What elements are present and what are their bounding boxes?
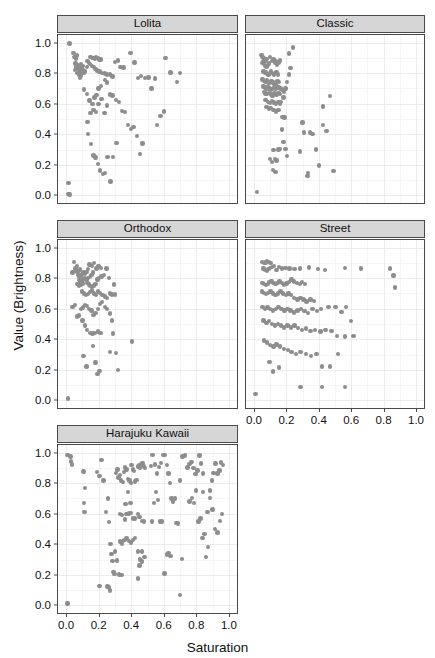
data-point <box>320 385 324 389</box>
data-point <box>199 461 203 465</box>
data-point <box>359 266 363 270</box>
data-point <box>321 123 325 127</box>
data-point <box>201 471 205 475</box>
facet-strip: Classic <box>245 15 425 33</box>
data-point <box>202 532 206 536</box>
data-point <box>113 549 117 553</box>
x-tick-label: 1.0 <box>212 619 246 631</box>
data-point <box>140 549 144 553</box>
gridline-major-horizontal <box>58 370 237 371</box>
data-point <box>128 501 132 505</box>
data-point <box>78 76 82 80</box>
data-point <box>308 130 312 134</box>
gridline-major-vertical <box>66 35 67 203</box>
data-point <box>93 311 97 315</box>
data-point <box>97 584 101 588</box>
facet-strip-label: Lolita <box>134 18 162 30</box>
data-point <box>138 152 142 156</box>
data-point <box>298 385 302 389</box>
y-tick-mark <box>54 247 57 248</box>
data-point <box>324 129 328 133</box>
data-point <box>339 310 343 314</box>
data-point <box>99 266 103 270</box>
x-tick-mark <box>319 409 320 412</box>
y-tick-label: 0.0 <box>21 189 51 201</box>
data-point <box>66 396 70 400</box>
y-tick-mark <box>54 369 57 370</box>
gridline-major-horizontal <box>58 195 237 196</box>
data-point <box>271 369 275 373</box>
data-point <box>123 110 127 114</box>
data-point <box>351 334 355 338</box>
data-point <box>159 461 163 465</box>
data-point <box>85 92 89 96</box>
x-tick-label: 0.4 <box>302 414 336 426</box>
gridline-major-vertical <box>131 240 132 408</box>
data-point <box>67 192 71 196</box>
gridline-major-horizontal <box>246 400 424 401</box>
data-point <box>103 171 107 175</box>
y-tick-label: 0.2 <box>21 569 51 581</box>
x-tick-label: 0.6 <box>334 414 368 426</box>
gridline-major-horizontal <box>58 544 237 545</box>
data-point <box>83 69 87 73</box>
data-point <box>323 268 327 272</box>
y-tick-mark <box>54 339 57 340</box>
gridline-minor-horizontal <box>58 263 237 264</box>
y-tick-label: 0.4 <box>21 333 51 345</box>
data-point <box>114 351 118 355</box>
y-tick-label: 0.6 <box>21 508 51 520</box>
y-tick-mark <box>54 164 57 165</box>
y-tick-label: 0.8 <box>21 67 51 79</box>
gridline-major-horizontal <box>58 104 237 105</box>
data-point <box>85 120 89 124</box>
gridline-major-vertical <box>164 240 165 408</box>
data-point <box>276 108 280 112</box>
data-point <box>99 97 103 101</box>
x-tick-label: 0.2 <box>269 414 303 426</box>
data-point <box>81 354 85 358</box>
data-point <box>165 463 169 467</box>
data-point <box>108 350 112 354</box>
data-point <box>285 80 289 84</box>
y-tick-label: 0.8 <box>21 477 51 489</box>
y-tick-mark <box>54 544 57 545</box>
data-point <box>106 496 110 500</box>
data-point <box>273 170 277 174</box>
facet-plot-area <box>245 34 425 204</box>
data-point <box>140 141 144 145</box>
data-point <box>123 517 127 521</box>
data-point <box>278 58 282 62</box>
data-point <box>119 573 123 577</box>
facet-panel-street: Street <box>245 220 425 409</box>
gridline-major-vertical <box>254 240 255 408</box>
data-point <box>304 352 308 356</box>
data-point <box>140 559 144 563</box>
data-point <box>110 93 114 97</box>
data-point <box>163 56 167 60</box>
data-point <box>333 305 337 309</box>
data-point <box>137 563 141 567</box>
data-point <box>101 478 105 482</box>
data-point <box>99 458 103 462</box>
y-tick-label: 0.0 <box>21 394 51 406</box>
data-point <box>66 181 70 185</box>
gridline-major-horizontal <box>58 309 237 310</box>
facet-strip-label: Orthodox <box>124 223 171 235</box>
data-point <box>318 329 322 333</box>
data-point <box>85 65 89 69</box>
data-point <box>108 311 112 315</box>
data-point <box>192 501 196 505</box>
data-point <box>277 365 281 369</box>
data-point <box>86 132 90 136</box>
data-point <box>82 510 86 514</box>
data-point <box>283 86 287 90</box>
y-tick-mark <box>54 452 57 453</box>
data-point <box>102 111 106 115</box>
y-tick-mark <box>54 42 57 43</box>
data-point <box>310 307 314 311</box>
data-point <box>287 51 291 55</box>
data-point <box>96 102 100 106</box>
data-point <box>83 486 87 490</box>
data-point <box>320 364 324 368</box>
